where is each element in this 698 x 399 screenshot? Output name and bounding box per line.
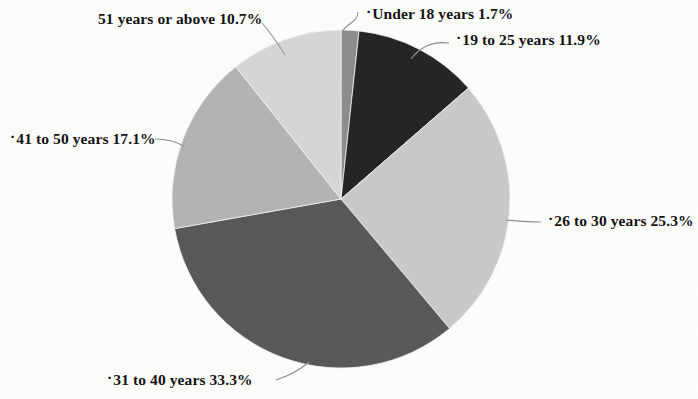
- slice-label-text: 26 to 30 years 25.3%: [554, 212, 693, 229]
- pie-chart-figure: ·Under 18 years 1.7% ·19 to 25 years 11.…: [0, 0, 698, 399]
- slice-label-text: Under 18 years 1.7%: [372, 5, 513, 22]
- slice-label-51-or-above: 51 years or above 10.7%: [98, 10, 262, 27]
- slice-label-41-to-50: ·41 to 50 years 17.1%: [10, 130, 156, 147]
- slice-label-text: 41 to 50 years 17.1%: [16, 130, 155, 147]
- slice-label-text: 51 years or above 10.7%: [98, 10, 262, 27]
- slice-label-text: 19 to 25 years 11.9%: [462, 31, 600, 48]
- paper-grain-overlay: [0, 0, 698, 399]
- slice-label-31-to-40: ·31 to 40 years 33.3%: [107, 371, 253, 388]
- label-bullet-icon: ·: [107, 369, 113, 386]
- label-bullet-icon: ·: [366, 3, 372, 20]
- label-bullet-icon: ·: [456, 29, 462, 46]
- label-bullet-icon: ·: [10, 128, 16, 145]
- slice-label-19-to-25: ·19 to 25 years 11.9%: [456, 31, 601, 48]
- slice-label-26-to-30: ·26 to 30 years 25.3%: [548, 212, 694, 229]
- slice-label-text: 31 to 40 years 33.3%: [113, 371, 252, 388]
- label-bullet-icon: ·: [548, 210, 554, 227]
- slice-label-under-18: ·Under 18 years 1.7%: [366, 5, 513, 22]
- pie-chart-canvas: [0, 0, 698, 399]
